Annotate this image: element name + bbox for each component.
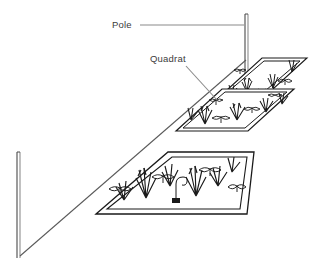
transect-diagram: Pole Quadrat	[0, 0, 309, 277]
quadrat-leader-line	[186, 66, 217, 100]
diagram-canvas: Pole Quadrat	[0, 0, 309, 277]
quadrat-middle	[176, 89, 294, 131]
quadrat-label: Quadrat	[150, 53, 186, 64]
pole-label: Pole	[112, 19, 132, 30]
pole-group	[17, 14, 248, 258]
quadrat-front	[96, 152, 254, 214]
left-pole	[17, 152, 20, 258]
